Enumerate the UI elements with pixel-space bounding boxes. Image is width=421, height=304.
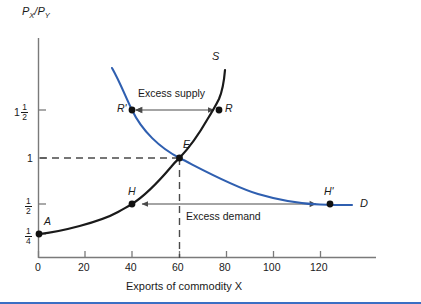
chart-plot-area xyxy=(0,0,421,304)
demand-curve-label: D xyxy=(360,198,368,209)
y-tick-1-half-den: 2 xyxy=(21,113,28,122)
x-tick-label-100: 100 xyxy=(263,262,281,273)
y-tick-1-whole: 1 xyxy=(27,153,33,164)
excess-supply-arrow xyxy=(136,107,214,113)
y-tick-label-1: 1 xyxy=(27,152,34,163)
supply-curve-label: S xyxy=(212,51,219,62)
x-tick-label-120: 120 xyxy=(310,262,328,273)
y-axis-title: PX/PY xyxy=(22,6,50,20)
x-tick-label-40: 40 xyxy=(125,262,137,273)
point-label-H-prime: H' xyxy=(324,186,334,197)
x-axis-title: Exports of commodity X xyxy=(126,281,242,292)
point-A xyxy=(36,231,43,238)
point-R-prime xyxy=(129,107,136,114)
y-axis-title-sub2: Y xyxy=(45,11,50,20)
point-label-H: H xyxy=(128,186,136,197)
point-H-prime xyxy=(327,201,334,208)
point-label-A: A xyxy=(44,216,51,227)
y-tick-label-half: 12 xyxy=(25,197,32,216)
y-tick-quarter-den: 4 xyxy=(25,237,32,246)
point-label-R: R xyxy=(225,103,233,114)
y-axis-title-p2: P xyxy=(37,5,44,17)
y-tick-label-1-and-half: 112 xyxy=(14,103,28,122)
x-tick-label-80: 80 xyxy=(219,262,231,273)
point-label-E: E xyxy=(183,139,190,150)
point-E xyxy=(176,155,183,162)
point-R xyxy=(216,107,223,114)
y-tick-label-quarter: 14 xyxy=(25,227,32,246)
y-tick-half-den: 2 xyxy=(25,207,32,216)
y-tick-1-half-whole: 1 xyxy=(14,107,20,118)
x-tick-label-0: 0 xyxy=(35,262,41,273)
chart-figure: PX/PY Exports of commodity X 112 1 12 14… xyxy=(0,0,421,304)
x-tick-label-60: 60 xyxy=(172,262,184,273)
point-label-R-prime: R' xyxy=(117,103,127,114)
excess-demand-label: Excess demand xyxy=(186,211,261,222)
excess-supply-label: Excess supply xyxy=(138,88,205,99)
x-tick-label-20: 20 xyxy=(78,262,90,273)
point-H xyxy=(129,201,136,208)
